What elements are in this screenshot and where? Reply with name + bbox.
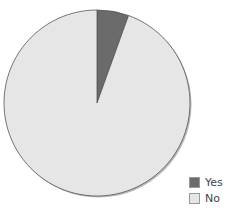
legend-swatch-yes [189,177,200,188]
legend-item-yes: Yes [189,174,223,190]
legend-item-no: No [189,190,223,206]
legend-swatch-no [189,193,200,204]
legend-label-yes: Yes [205,176,223,189]
pie-slice-no [4,10,190,196]
legend: Yes No [189,174,223,206]
legend-label-no: No [205,192,220,205]
